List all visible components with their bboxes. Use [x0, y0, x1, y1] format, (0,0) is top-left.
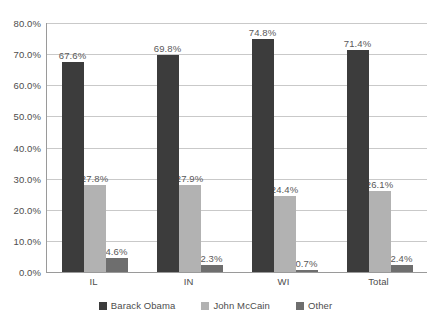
bar[interactable]	[347, 50, 369, 272]
y-axis: 0.0%10.0%20.0%30.0%40.0%50.0%60.0%70.0%8…	[0, 0, 44, 322]
y-tick-label: 60.0%	[14, 80, 41, 91]
y-tick-label: 10.0%	[14, 235, 41, 246]
bar[interactable]	[391, 265, 413, 272]
bar[interactable]	[369, 191, 391, 272]
y-tick-label: 80.0%	[14, 18, 41, 29]
legend-swatch-icon	[296, 302, 304, 310]
legend-item[interactable]: Other	[296, 300, 332, 311]
y-tick-label: 40.0%	[14, 142, 41, 153]
x-tick-label: WI	[236, 276, 331, 292]
legend-swatch-icon	[99, 302, 107, 310]
bars	[62, 23, 128, 272]
bar-group: 67.6%27.8%4.6%	[47, 23, 142, 272]
x-tick-label: IL	[46, 276, 141, 292]
bars	[347, 23, 413, 272]
bar[interactable]	[274, 196, 296, 272]
bar[interactable]	[106, 258, 128, 272]
bar[interactable]	[62, 62, 84, 272]
bar-group: 69.8%27.9%2.3%	[142, 23, 237, 272]
bar[interactable]	[252, 39, 274, 272]
y-tick-label: 50.0%	[14, 111, 41, 122]
legend-label: Barack Obama	[111, 300, 176, 311]
x-tick-label: Total	[331, 276, 426, 292]
bar-chart: 0.0%10.0%20.0%30.0%40.0%50.0%60.0%70.0%8…	[0, 0, 431, 322]
plot-area: 67.6%27.8%4.6%69.8%27.9%2.3%74.8%24.4%0.…	[46, 23, 427, 273]
x-tick-label: IN	[141, 276, 236, 292]
bars	[252, 23, 318, 272]
bar[interactable]	[84, 185, 106, 272]
bars	[157, 23, 223, 272]
bar-group: 71.4%26.1%2.4%	[332, 23, 427, 272]
y-tick-label: 20.0%	[14, 204, 41, 215]
chart-legend: Barack ObamaJohn McCainOther	[0, 300, 431, 311]
legend-item[interactable]: John McCain	[201, 300, 270, 311]
legend-label: John McCain	[213, 300, 270, 311]
legend-label: Other	[308, 300, 332, 311]
bar-group: 74.8%24.4%0.7%	[237, 23, 332, 272]
bar[interactable]	[201, 265, 223, 272]
y-tick-label: 0.0%	[19, 267, 41, 278]
legend-item[interactable]: Barack Obama	[99, 300, 176, 311]
legend-swatch-icon	[201, 302, 209, 310]
bar-groups: 67.6%27.8%4.6%69.8%27.9%2.3%74.8%24.4%0.…	[47, 23, 427, 272]
y-tick-label: 70.0%	[14, 49, 41, 60]
bar[interactable]	[296, 270, 318, 272]
bar[interactable]	[157, 55, 179, 272]
x-axis-category-labels: ILINWITotal	[46, 276, 426, 292]
bar[interactable]	[179, 185, 201, 272]
y-tick-label: 30.0%	[14, 173, 41, 184]
